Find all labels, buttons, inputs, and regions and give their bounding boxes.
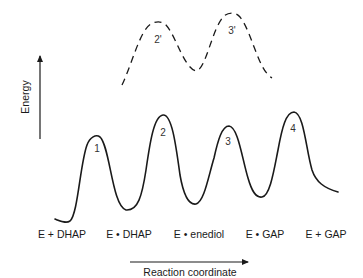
alt-ts-label-2prime: 2' [154, 34, 162, 45]
energy-axis-label: Energy [19, 80, 31, 114]
ts-label-3: 3 [225, 136, 231, 147]
reaction-coordinate-label: Reaction coordinate [143, 266, 237, 278]
ts-label-2: 2 [160, 127, 166, 138]
state-label-e-dot-dhap: E • DHAP [106, 228, 152, 240]
state-label-e-dot-gap: E • GAP [246, 228, 285, 240]
alternative-pathway-curve [122, 13, 272, 85]
state-label-e-gap: E + GAP [305, 228, 346, 240]
alt-ts-label-3prime: 3' [228, 25, 236, 36]
state-label-e-dot-enediol: E • enediol [174, 228, 224, 240]
state-label-e-dhap: E + DHAP [38, 228, 86, 240]
ts-label-4: 4 [290, 123, 296, 134]
energy-diagram: Energy 1 2 3 4 2' 3' E + DHAP E • DHAP E… [0, 0, 363, 278]
ts-label-1: 1 [94, 143, 100, 154]
